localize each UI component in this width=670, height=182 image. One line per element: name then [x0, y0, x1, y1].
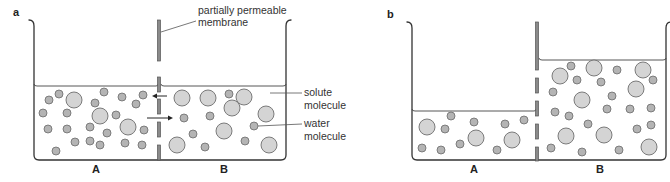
- membrane-segment: [158, 20, 161, 61]
- water-molecule: [63, 125, 71, 133]
- arrowhead-icon: [168, 116, 173, 121]
- membrane-segment: [536, 101, 539, 116]
- solute-molecule: [468, 130, 484, 146]
- solute-molecule: [419, 119, 435, 135]
- membrane-segment: [536, 22, 539, 70]
- solute-molecule: [120, 119, 136, 135]
- panel-letter: b: [387, 8, 394, 20]
- membrane-label: partially permeable: [198, 4, 287, 16]
- water-molecule: [603, 105, 611, 113]
- membrane-segment: [158, 122, 161, 137]
- water-molecule: [608, 92, 616, 100]
- solute-molecule: [558, 128, 574, 144]
- water-molecule: [615, 146, 623, 154]
- membrane-segment: [536, 78, 539, 93]
- water-molecule: [250, 122, 258, 130]
- water-molecule: [44, 125, 52, 133]
- water-molecule: [520, 116, 528, 124]
- solute-molecule: [224, 100, 240, 116]
- water-molecule: [63, 109, 71, 117]
- solute-molecule: [258, 106, 274, 122]
- water-molecule: [493, 146, 501, 154]
- compartment-label: A: [92, 163, 100, 175]
- water-molecule: [180, 114, 188, 122]
- compartment-label: B: [596, 163, 604, 175]
- water-molecule: [140, 126, 148, 134]
- compartment-label: B: [220, 163, 228, 175]
- water-molecule: [565, 112, 573, 120]
- water-molecule: [573, 76, 581, 84]
- water-molecule: [501, 120, 509, 128]
- water-molecule: [647, 121, 655, 129]
- water-molecule: [647, 104, 655, 112]
- solute-molecule: [574, 92, 590, 108]
- diagram-canvas: aABpartially permeablemembranesolutemole…: [0, 0, 670, 182]
- solute-molecule: [635, 62, 651, 78]
- solute-molecule: [641, 139, 657, 155]
- water-molecule: [447, 112, 455, 120]
- membrane-leader-line: [161, 21, 196, 32]
- solute-molecule: [628, 81, 644, 97]
- water-molecule: [206, 112, 214, 120]
- water-molecule: [549, 88, 557, 96]
- water-surface-b: [161, 84, 286, 86]
- water-molecule: [241, 137, 249, 145]
- solute-molecule: [216, 123, 232, 139]
- water-molecule: [52, 147, 60, 155]
- membrane-segment: [536, 147, 539, 161]
- solute-molecule: [169, 137, 185, 153]
- water-molecule: [139, 91, 147, 99]
- panel-a: aABpartially permeablemembranesolutemole…: [13, 4, 346, 175]
- solute-molecule: [92, 108, 108, 124]
- water-molecule: [649, 76, 657, 84]
- water-molecule: [201, 143, 209, 151]
- membrane-segment: [158, 77, 161, 92]
- water-molecule: [418, 144, 426, 152]
- water-molecule: [86, 123, 94, 131]
- water-label: molecule: [304, 130, 346, 142]
- water-molecule: [613, 66, 621, 74]
- compartment-label: A: [470, 163, 478, 175]
- water-molecule: [547, 144, 555, 152]
- membrane-segment: [158, 145, 161, 160]
- water-molecule: [118, 93, 126, 101]
- solute-molecule: [261, 137, 277, 153]
- solute-molecule: [504, 132, 520, 148]
- solute-molecule: [596, 127, 612, 143]
- water-molecule: [55, 90, 63, 98]
- water-leader-line: [258, 124, 302, 126]
- solute-label: molecule: [304, 99, 346, 111]
- water-molecule: [633, 125, 641, 133]
- water-molecule: [441, 125, 449, 133]
- water-molecule: [112, 111, 120, 119]
- water-molecule: [100, 88, 108, 96]
- water-molecule: [121, 139, 129, 147]
- water-molecule: [86, 137, 94, 145]
- panel-letter: a: [13, 6, 20, 18]
- solute-molecule: [552, 68, 568, 84]
- solute-molecule: [200, 90, 216, 106]
- membrane-label: membrane: [198, 16, 248, 28]
- water-molecule: [189, 130, 197, 138]
- osmosis-diagram: aABpartially permeablemembranesolutemole…: [0, 0, 670, 182]
- solute-molecule: [586, 60, 602, 76]
- water-molecule: [103, 129, 111, 137]
- membrane-segment: [158, 99, 161, 114]
- water-molecule: [578, 148, 586, 156]
- water-molecule: [71, 138, 79, 146]
- arrowhead-icon: [152, 94, 157, 99]
- panel-b: bAB: [387, 8, 670, 175]
- water-molecule: [437, 146, 445, 154]
- membrane-segment: [536, 124, 539, 139]
- water-surface-b: [539, 58, 666, 60]
- water-surface-a: [34, 84, 158, 86]
- solute-molecule: [66, 92, 82, 108]
- water-molecule: [138, 141, 146, 149]
- water-molecule: [91, 99, 99, 107]
- water-molecule: [584, 120, 592, 128]
- water-molecule: [39, 109, 47, 117]
- water-molecule: [132, 100, 140, 108]
- water-molecule: [45, 96, 53, 104]
- water-molecule: [567, 62, 575, 70]
- water-molecule: [551, 108, 559, 116]
